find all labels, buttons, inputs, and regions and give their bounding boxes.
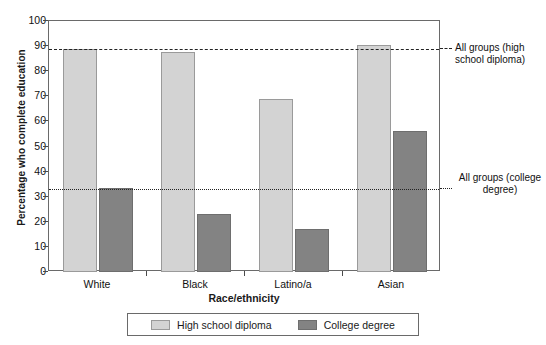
plot-area <box>48 20 440 271</box>
y-tick-label: 30 <box>0 190 46 202</box>
annotation-high-school-line: All groups (high school diploma) <box>455 42 545 66</box>
y-tick-label: 0 <box>0 265 46 277</box>
legend-label-college: College degree <box>324 319 395 331</box>
bar-latino-a-college-degree <box>295 229 329 272</box>
x-tick-label-asian: Asian <box>342 278 440 290</box>
reference-line-high-school <box>49 49 439 50</box>
bar-asian-college-degree <box>393 131 427 272</box>
bar-black-high-school-diploma <box>161 52 195 272</box>
reference-line-college <box>49 189 439 190</box>
x-tick-label-black: Black <box>146 278 244 290</box>
y-tick-label: 100 <box>0 14 46 26</box>
y-tick-label: 40 <box>0 165 46 177</box>
annotation-college-line: All groups (college degree) <box>455 172 545 196</box>
bar-black-college-degree <box>197 214 231 272</box>
y-tick-label: 50 <box>0 140 46 152</box>
y-tick-label: 70 <box>0 89 46 101</box>
reference-line-extension-high-school <box>440 48 452 49</box>
reference-line-extension-college <box>440 188 452 189</box>
legend: High school diploma College degree <box>127 313 419 336</box>
bar-asian-high-school-diploma <box>357 45 391 272</box>
legend-swatch-icon-college <box>298 320 317 330</box>
legend-swatch-icon-high-school <box>151 320 170 330</box>
x-tick-label-latino-a: Latino/a <box>244 278 342 290</box>
x-tick-mark <box>342 271 343 276</box>
bar-chart-figure: Percentage who complete education 010203… <box>0 0 546 345</box>
legend-label-high-school: High school diploma <box>177 319 272 331</box>
x-axis-title: Race/ethnicity <box>48 292 440 304</box>
legend-item-high-school-diploma[interactable]: High school diploma <box>151 319 272 331</box>
y-tick-label: 60 <box>0 114 46 126</box>
y-tick-label: 10 <box>0 240 46 252</box>
x-tick-mark <box>146 271 147 276</box>
y-tick-label: 20 <box>0 215 46 227</box>
bar-white-high-school-diploma <box>63 49 97 272</box>
legend-item-college-degree[interactable]: College degree <box>298 319 395 331</box>
y-tick-mark <box>43 271 48 272</box>
y-tick-label: 80 <box>0 64 46 76</box>
x-tick-mark <box>244 271 245 276</box>
y-tick-label: 90 <box>0 39 46 51</box>
bar-white-college-degree <box>99 188 133 272</box>
x-tick-label-white: White <box>48 278 146 290</box>
bar-latino-a-high-school-diploma <box>259 99 293 272</box>
